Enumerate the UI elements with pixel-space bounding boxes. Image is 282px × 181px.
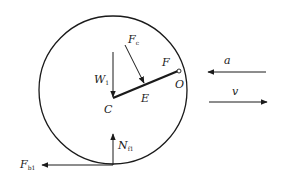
label-E: E — [140, 92, 149, 105]
label-C: C — [104, 103, 113, 116]
label-O: O — [175, 78, 184, 91]
label-Fb: Fb1 — [19, 158, 35, 171]
label-v: v — [232, 85, 239, 98]
label-a: a — [224, 54, 231, 67]
label-W1: W1 — [94, 73, 109, 86]
force-Fc-arrow — [125, 45, 144, 83]
label-Fc: Fc — [127, 33, 140, 46]
free-body-diagram: W1 Fc F O E C Nf1 Fb1 a v — [0, 0, 282, 181]
label-N: Nf1 — [117, 139, 134, 152]
label-F: F — [161, 56, 170, 69]
pivot-O — [177, 69, 181, 73]
